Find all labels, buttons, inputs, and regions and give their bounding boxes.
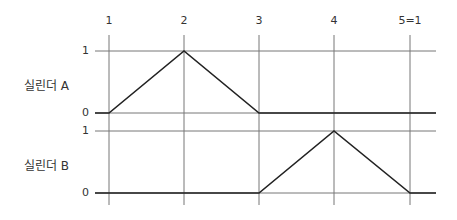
cylinder-b-high-label: 1	[82, 124, 89, 137]
cylinder-a-label: 실린더 A	[24, 76, 69, 93]
step-label-3: 3	[256, 14, 263, 27]
step-label-5: 5=1	[398, 14, 421, 27]
cylinder-a-signal	[95, 51, 436, 113]
step-label-1: 1	[106, 14, 113, 27]
cylinder-b-low-label: 0	[82, 186, 89, 199]
cylinder-b-label: 실린더 B	[24, 156, 69, 173]
cylinder-a-low-label: 0	[82, 106, 89, 119]
cylinder-b-signal	[95, 131, 436, 193]
diagram-canvas	[0, 0, 457, 220]
cylinder-a-high-label: 1	[82, 44, 89, 57]
step-label-4: 4	[331, 14, 338, 27]
displacement-step-diagram: 1 2 3 4 5=1 실린더 A 1 0 실린더 B 1 0	[0, 0, 457, 220]
step-label-2: 2	[181, 14, 188, 27]
